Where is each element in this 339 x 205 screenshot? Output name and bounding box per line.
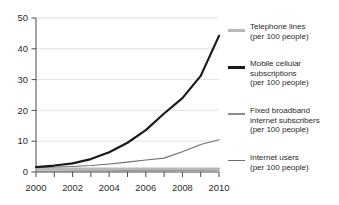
x-axis-ticks: [36, 172, 219, 177]
legend-label-mobile-cellular-unit: (per 100 people): [250, 78, 309, 88]
x-tick-label-2000: 2000: [19, 182, 53, 193]
legend-label-internet-users-line1: Internet users: [250, 153, 299, 162]
x-tick-label-2004: 2004: [92, 182, 126, 193]
y-tick-label-40: 40: [6, 43, 28, 54]
x-tick-label-2008: 2008: [165, 182, 199, 193]
legend-label-fixed-broadband: Fixed broadband internet subscribers (pe…: [250, 106, 320, 135]
x-tick-label-2006: 2006: [129, 182, 163, 193]
legend-label-internet-users: Internet users (per 100 people): [250, 153, 309, 172]
legend-swatch-fixed-broadband: [228, 113, 245, 115]
legend-label-telephone-lines-line1: Telephone lines: [250, 22, 306, 31]
legend-label-telephone-lines: Telephone lines (per 100 people): [250, 22, 309, 41]
y-tick-label-30: 30: [6, 74, 28, 85]
x-tick-label-2010: 2010: [202, 182, 236, 193]
legend-label-fixed-broadband-unit: (per 100 people): [250, 125, 320, 135]
legend-label-mobile-cellular-line1: Mobile cellular: [250, 59, 301, 68]
legend-swatch-internet-users: [228, 160, 245, 161]
legend-label-fixed-broadband-line2: internet subscribers: [250, 116, 320, 126]
y-tick-label-0: 0: [6, 166, 28, 177]
y-axis-ticks: [32, 18, 37, 172]
legend-label-fixed-broadband-line1: Fixed broadband: [250, 106, 310, 115]
x-tick-label-2002: 2002: [56, 182, 90, 193]
legend-label-internet-users-unit: (per 100 people): [250, 163, 309, 173]
y-tick-label-50: 50: [6, 12, 28, 23]
line-chart-figure: 50 40 30 20 10 0 2000 2002 2004 2006 200…: [0, 0, 339, 205]
legend-label-mobile-cellular: Mobile cellular subscriptions (per 100 p…: [250, 59, 309, 88]
series-line-mobile-cellular: [36, 36, 219, 167]
gridlines: [36, 18, 219, 141]
legend-swatch-mobile-cellular: [228, 66, 245, 69]
y-tick-label-10: 10: [6, 135, 28, 146]
y-tick-label-20: 20: [6, 105, 28, 116]
legend-label-telephone-lines-unit: (per 100 people): [250, 32, 309, 42]
legend-label-mobile-cellular-line2: subscriptions: [250, 69, 309, 79]
legend-swatch-telephone-lines: [228, 29, 245, 32]
